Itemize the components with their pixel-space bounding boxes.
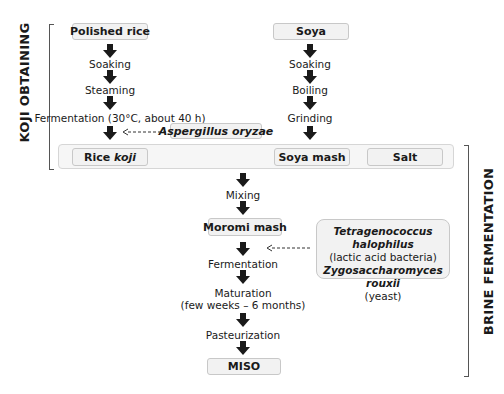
section-label-koji: KOJI OBTAINING [17, 18, 32, 148]
down-arrow-icon [103, 70, 117, 84]
polished-rice-box: Polished rice [72, 23, 148, 40]
aspergillus-box: Aspergillus oryzae [170, 123, 262, 139]
down-arrow-icon [236, 341, 250, 355]
brine-bracket [464, 145, 469, 377]
rice-koji-prefix: Rice [84, 151, 114, 164]
rice-step-steaming: Steaming [85, 84, 135, 96]
soya-step-boiling: Boiling [292, 84, 328, 96]
step-maturation-time: (few weeks – 6 months) [181, 299, 306, 311]
rice-koji-box: Rice koji [72, 148, 148, 166]
down-arrow-icon [236, 313, 250, 327]
bacteria-name: Tetragenococcus halophilus [333, 225, 432, 250]
soya-box: Soya [273, 23, 349, 40]
down-arrow-icon [303, 70, 317, 84]
yeast-name: Zygosaccharomyces rouxii [323, 264, 442, 289]
aspergillus-label: Aspergillus oryzae [159, 125, 274, 138]
down-arrow-icon [236, 201, 250, 215]
bacteria-type: (lactic acid bacteria) [317, 251, 449, 264]
dashed-arrow-icon [266, 244, 312, 252]
soya-step-grinding: Grinding [288, 112, 333, 124]
miso-box: MISO [207, 358, 281, 375]
down-arrow-icon [103, 44, 117, 58]
step-mixing: Mixing [226, 189, 260, 201]
step-fermentation: Fermentation [208, 258, 278, 270]
brine-microorganisms-box: Tetragenococcus halophilus (lactic acid … [316, 219, 450, 279]
step-maturation: Maturation [214, 287, 271, 299]
soya-mash-box: Soya mash [274, 148, 350, 166]
down-arrow-icon [103, 126, 117, 140]
down-arrow-icon [236, 242, 250, 256]
soya-step-soaking: Soaking [289, 58, 331, 70]
down-arrow-icon [303, 44, 317, 58]
yeast-type: (yeast) [317, 290, 449, 303]
down-arrow-icon [303, 126, 317, 140]
rice-step-soaking: Soaking [89, 58, 131, 70]
section-label-brine: BRINE FERMENTATION [481, 162, 496, 342]
koji-bracket [49, 24, 54, 170]
rice-koji-italic: koji [114, 151, 136, 164]
down-arrow-icon [236, 270, 250, 284]
salt-box: Salt [367, 148, 443, 166]
moromi-mash-box: Moromi mash [208, 218, 282, 236]
down-arrow-icon [103, 96, 117, 110]
step-pasteurization: Pasteurization [206, 329, 280, 341]
down-arrow-icon [303, 96, 317, 110]
down-arrow-icon [236, 173, 250, 187]
